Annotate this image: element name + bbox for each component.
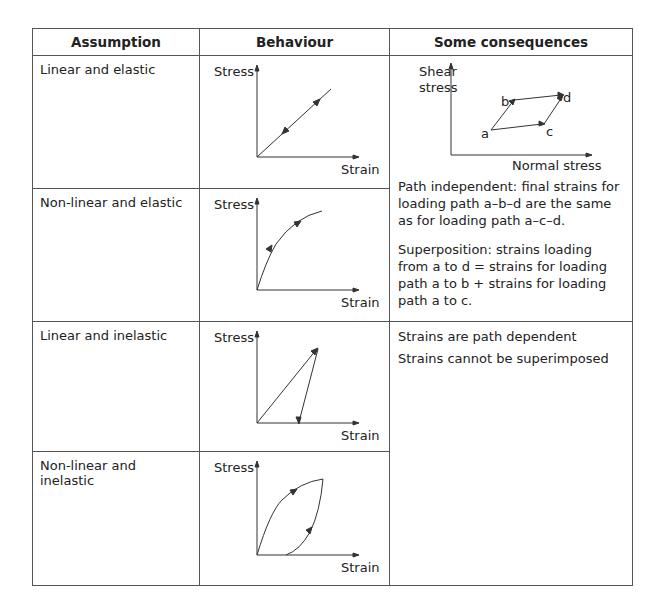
y-axis-label-1: Shear — [419, 64, 457, 79]
assumption-label: Linear and elastic — [33, 56, 199, 77]
point-label-a: a — [481, 126, 489, 141]
y-axis-label-2: stress — [419, 80, 457, 95]
assumption-label: Non-linear and inelastic — [33, 452, 199, 488]
table-row: Linear and inelastic Stress Strain — [33, 322, 633, 452]
header-row: Assumption Behaviour Some consequences — [33, 29, 633, 56]
assumption-label: Linear and inelastic — [33, 322, 199, 343]
consequences-text-inelastic: Strains are path dependent Strains canno… — [390, 322, 632, 367]
shear-normal-stress-diagram: Shear stress Normal stress a b c d — [390, 56, 632, 178]
consequences-elastic: Shear stress Normal stress a b c d — [390, 56, 633, 322]
consequences-text-elastic: Path independent: final strains for load… — [390, 178, 632, 309]
material-assumptions-table: Assumption Behaviour Some consequences L… — [32, 28, 633, 586]
header-behaviour: Behaviour — [200, 29, 390, 56]
linear-inelastic-curve — [200, 322, 390, 451]
stress-strain-graph-nonlinear-elastic: Stress Strain — [200, 189, 389, 318]
superposition-text: Superposition: strains loading from a to… — [398, 241, 625, 309]
path-independent-text: Path independent: final strains for load… — [398, 178, 625, 229]
nonlinear-elastic-curve — [200, 189, 390, 318]
assumption-label: Non-linear and elastic — [33, 189, 199, 210]
point-label-b: b — [501, 94, 509, 109]
no-superposition-text: Strains cannot be superimposed — [398, 350, 625, 367]
linear-elastic-curve — [200, 56, 390, 185]
header-assumption: Assumption — [33, 29, 200, 56]
path-dependent-text: Strains are path dependent — [398, 328, 625, 345]
nonlinear-inelastic-curve — [200, 452, 390, 586]
stress-strain-graph-nonlinear-inelastic: Stress Strain — [200, 452, 389, 581]
consequences-inelastic: Strains are path dependent Strains canno… — [390, 322, 633, 586]
point-label-c: c — [546, 124, 553, 139]
header-consequences: Some consequences — [390, 29, 633, 56]
stress-strain-graph-linear-inelastic: Stress Strain — [200, 322, 389, 451]
x-axis-label: Normal stress — [512, 158, 602, 173]
table-row: Linear and elastic Stress Strain — [33, 56, 633, 189]
stress-strain-graph-linear-elastic: Stress Strain — [200, 56, 389, 185]
point-label-d: d — [563, 90, 571, 105]
